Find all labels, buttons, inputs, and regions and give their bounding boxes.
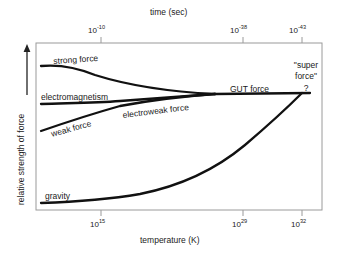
y-axis-title: relative strength of force [16,114,26,205]
label-super-force-line1: "super [289,60,323,70]
bottom-tick-label-1: 1015 [90,218,105,229]
label-gut-force: GUT force [230,84,269,94]
bottom-tick-label-3: 1032 [291,218,306,229]
top-axis-title: time (sec) [150,7,187,17]
label-super-force-question: ? [289,83,323,93]
label-gravity: gravity [45,191,70,201]
curve-strong-force [41,65,215,94]
y-axis-arrow [24,44,31,95]
top-tick-label-1: 10-10 [88,24,105,35]
top-tick-label-3: 10-43 [289,24,306,35]
bottom-tick-label-2: 1029 [232,218,247,229]
top-tick-label-2: 10-38 [230,24,247,35]
figure-root: relative strength of force time (sec) te… [0,0,342,256]
label-electromagnetism: electromagnetism [41,92,108,102]
top-axis-ticks [101,37,302,43]
label-super-force-line2: force" [289,71,323,81]
bottom-axis-title: temperature (K) [140,235,200,245]
bottom-axis-ticks [101,210,302,216]
